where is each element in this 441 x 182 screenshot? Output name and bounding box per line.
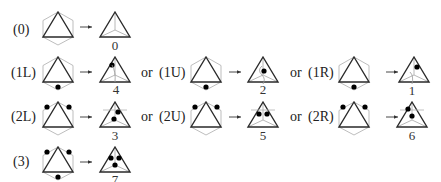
or-connector: or — [141, 66, 153, 80]
result-number-4: 4 — [113, 83, 120, 96]
case-1R — [339, 57, 429, 90]
triangle-transformation-diagram: (0) 0 (1L) 4 or (1U) 2 or (1R) 1 (2L) 3 … — [0, 0, 441, 182]
result-number-7: 7 — [112, 173, 119, 182]
result-number-6: 6 — [409, 129, 416, 142]
diagram-graphics — [0, 0, 441, 182]
case-label-0: (0) — [13, 23, 29, 37]
or-connector: or — [290, 66, 302, 80]
result-number-1: 1 — [409, 84, 416, 97]
or-connector: or — [141, 110, 153, 124]
case-label-2U: (2U) — [159, 110, 185, 124]
case-label-3: (3) — [13, 155, 29, 169]
case-label-1R: (1R) — [308, 66, 334, 80]
case-label-1L: (1L) — [11, 66, 36, 80]
result-number-2: 2 — [260, 83, 267, 96]
or-connector: or — [290, 110, 302, 124]
result-number-5: 5 — [260, 129, 267, 142]
case-label-2L: (2L) — [11, 110, 36, 124]
result-number-3: 3 — [112, 129, 119, 142]
result-number-0: 0 — [112, 39, 119, 52]
case-label-2R: (2R) — [308, 110, 334, 124]
case-label-1U: (1U) — [159, 66, 185, 80]
